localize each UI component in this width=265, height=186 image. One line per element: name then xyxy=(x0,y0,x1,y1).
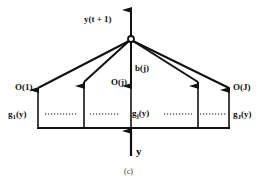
input-label: y xyxy=(136,146,142,157)
basis-suffix: (y) xyxy=(139,108,150,118)
output-label-1: O(1) xyxy=(15,83,33,92)
basis-suffix: (y) xyxy=(241,109,252,119)
output-label-j: O(j) xyxy=(111,78,127,87)
basis-label-j: gj(y) xyxy=(132,109,149,120)
connection-line-4 xyxy=(133,41,198,82)
output-label: y(t + 1) xyxy=(84,15,112,24)
basis-label-1: g1(y) xyxy=(8,110,27,121)
basis-label-J: gJ(y) xyxy=(233,110,252,121)
weight-label: b(j) xyxy=(135,64,149,73)
network-diagram xyxy=(0,0,265,186)
output-label-J: O(J) xyxy=(233,83,251,92)
basis-suffix: (y) xyxy=(16,109,27,119)
figure-caption: (c) xyxy=(124,167,133,176)
